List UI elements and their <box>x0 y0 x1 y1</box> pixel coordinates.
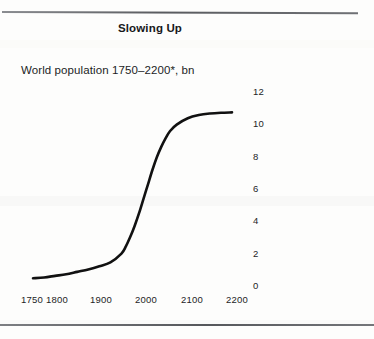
x-tick-label: 2200 <box>226 294 248 305</box>
y-tick-label: 8 <box>253 151 275 162</box>
x-tick-label: 1750 <box>21 294 43 305</box>
y-tick-label: 12 <box>253 86 275 97</box>
x-tick-label: 2000 <box>135 294 157 305</box>
plot-area <box>0 0 374 339</box>
x-tick-label: 1800 <box>46 294 68 305</box>
y-tick-label: 6 <box>253 183 275 194</box>
x-tick-label: 2100 <box>181 294 203 305</box>
y-tick-label: 2 <box>253 248 275 259</box>
x-tick-label: 1900 <box>90 294 112 305</box>
population-curve-svg <box>0 0 374 339</box>
figure-container: Slowing Up World population 1750–2200*, … <box>0 0 374 339</box>
y-tick-label: 0 <box>253 280 275 291</box>
series-line-world-population <box>33 112 232 278</box>
y-tick-label: 10 <box>253 118 275 129</box>
y-tick-label: 4 <box>253 215 275 226</box>
